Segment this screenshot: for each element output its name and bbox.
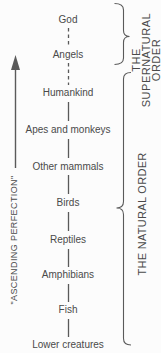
natural-order-label: THE NATURAL ORDER bbox=[136, 139, 148, 289]
supernatural-order-line-3: ORDER bbox=[151, 0, 161, 120]
level-humankind: Humankind bbox=[0, 87, 136, 99]
level-fish: Fish bbox=[0, 304, 136, 316]
level-god: God bbox=[0, 14, 136, 26]
level-reptiles: Reptiles bbox=[0, 234, 136, 246]
level-other-mammals: Other mammals bbox=[0, 161, 136, 173]
level-lower-creatures: Lower creatures bbox=[0, 339, 136, 351]
level-birds: Birds bbox=[0, 197, 136, 209]
level-angels: Angels bbox=[0, 49, 136, 61]
supernatural-order-label: THE SUPERNATURAL ORDER bbox=[131, 0, 161, 120]
up-arrow-icon bbox=[11, 55, 20, 168]
ascending-perfection-label: "ASCENDING PERFECTION" bbox=[8, 165, 20, 315]
level-amphibians: Amphibians bbox=[0, 269, 136, 281]
level-apes-and-monkeys: Apes and monkeys bbox=[0, 124, 136, 136]
great-chain-of-being-diagram: God Angels Humankind Apes and monkeys Ot… bbox=[0, 0, 161, 353]
